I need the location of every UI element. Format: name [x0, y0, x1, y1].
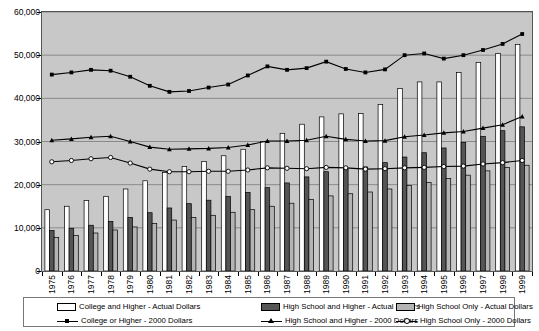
data-point-marker — [285, 166, 289, 170]
bar — [113, 230, 118, 271]
data-point-marker — [403, 53, 407, 57]
data-point-marker — [109, 155, 113, 159]
plot-svg — [42, 12, 532, 271]
x-axis-tick-mark — [179, 272, 180, 276]
x-axis-tick-label: 1992 — [381, 275, 389, 294]
bar — [427, 183, 432, 271]
legend-item[interactable]: College and Higher - Actual Dollars — [57, 300, 200, 314]
bar — [505, 167, 510, 271]
chart-legend: College and Higher - Actual DollarsHigh … — [23, 297, 515, 327]
data-point-marker — [422, 165, 426, 169]
bar — [309, 199, 314, 271]
legend-marker — [65, 319, 69, 323]
x-axis-tick-label: 1989 — [322, 275, 330, 294]
x-axis-tick-mark — [414, 272, 415, 276]
bar — [398, 88, 403, 271]
bar — [231, 212, 236, 271]
legend-item[interactable]: High School Only - 2000 Dollars — [396, 314, 531, 328]
data-point-marker — [501, 42, 505, 46]
bar — [123, 189, 128, 271]
bar — [191, 217, 196, 271]
bar — [246, 192, 251, 271]
data-point-marker — [265, 166, 269, 170]
x-axis-tick-label: 1983 — [205, 275, 213, 294]
data-point-marker — [167, 170, 171, 174]
legend-label: College and Higher - Actual Dollars — [79, 303, 200, 311]
data-point-marker — [422, 52, 426, 56]
x-axis-tick-mark — [199, 272, 200, 276]
data-point-marker — [246, 168, 250, 172]
bar — [383, 163, 388, 271]
data-point-marker — [246, 74, 250, 78]
data-point-marker — [462, 53, 466, 57]
x-axis-tick-mark — [101, 272, 102, 276]
bar — [162, 173, 167, 271]
bar — [167, 208, 172, 271]
legend-item[interactable]: College or Higher - 2000 Dollars — [57, 314, 192, 328]
bar — [446, 179, 451, 271]
bar — [324, 172, 329, 271]
bar — [69, 228, 74, 271]
data-point-marker — [481, 162, 485, 166]
legend-label: High School Only - 2000 Dollars — [420, 317, 531, 325]
bar — [363, 167, 368, 271]
x-axis-tick-mark — [81, 272, 82, 276]
x-axis-tick-mark — [512, 272, 513, 276]
x-axis-tick-label: 1993 — [401, 275, 409, 294]
bar — [172, 220, 177, 271]
data-point-marker — [70, 71, 74, 75]
bar — [74, 236, 79, 271]
bar — [461, 142, 466, 271]
x-axis-tick-mark — [62, 272, 63, 276]
data-point-marker — [344, 166, 348, 170]
x-axis-tick-mark — [297, 272, 298, 276]
bar — [500, 131, 505, 271]
data-point-marker — [285, 68, 289, 72]
bar — [128, 217, 133, 271]
data-point-marker — [226, 83, 230, 87]
legend-item[interactable]: High School Only - Actual Dollars — [396, 300, 533, 314]
x-axis-tick-label: 1980 — [146, 275, 154, 294]
data-point-marker — [344, 67, 348, 71]
bar — [89, 225, 94, 271]
data-point-marker — [520, 158, 524, 162]
bar — [143, 181, 148, 271]
data-point-marker — [50, 160, 54, 164]
bar — [152, 224, 157, 271]
bar — [50, 230, 55, 271]
bar — [525, 165, 530, 271]
bar — [206, 200, 211, 271]
data-point-marker — [501, 161, 505, 165]
legend-item[interactable]: High School and Higher - 2000 Dollars — [261, 314, 418, 328]
data-point-marker — [481, 48, 485, 52]
x-axis-tick-label: 1994 — [420, 275, 428, 294]
x-axis-tick-label: 1987 — [283, 275, 291, 294]
x-axis-tick-label: 1984 — [224, 275, 232, 294]
bar — [348, 194, 353, 271]
y-axis-tick-label: 40,000 — [2, 94, 40, 102]
bar — [187, 204, 192, 271]
bar — [387, 189, 392, 271]
bar — [378, 104, 383, 271]
bar — [64, 206, 69, 271]
x-axis-tick-label: 1999 — [518, 275, 526, 294]
y-axis-tick-label: 50,000 — [2, 51, 40, 59]
x-axis-tick-mark — [395, 272, 396, 276]
data-point-marker — [403, 166, 407, 170]
data-point-marker — [226, 169, 230, 173]
legend-label: College or Higher - 2000 Dollars — [81, 317, 192, 325]
triangle-marker-line-swatch — [261, 317, 282, 326]
dark-bar-swatch — [261, 303, 280, 311]
data-point-marker — [305, 167, 309, 171]
x-axis-tick-mark — [493, 272, 494, 276]
x-axis-tick-mark — [258, 272, 259, 276]
x-axis-tick-label: 1996 — [459, 275, 467, 294]
bar — [339, 114, 344, 271]
bar — [93, 233, 98, 271]
data-point-marker — [89, 157, 93, 161]
bar — [481, 136, 486, 271]
x-axis-tick-label: 1998 — [499, 275, 507, 294]
bar — [104, 196, 109, 271]
data-point-marker — [324, 165, 328, 169]
data-point-marker — [520, 32, 524, 36]
